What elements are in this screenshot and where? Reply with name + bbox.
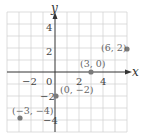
point-marker (88, 69, 93, 74)
point-6-2: (6, 2) (101, 42, 130, 53)
point-label: (6, 2) (101, 42, 127, 53)
point-label: (−3, −4) (12, 105, 53, 116)
x-axis-label: x (132, 65, 139, 79)
y-tick-2: 2 (46, 46, 52, 57)
point-marker (17, 115, 22, 120)
point-label: (3, 0) (80, 58, 106, 69)
x-axis-arrow-icon (125, 70, 132, 75)
y-tick-neg4: −4 (43, 115, 58, 126)
point-marker (53, 93, 58, 98)
y-axis-label: y (50, 1, 58, 15)
y-tick-neg2: −2 (40, 91, 55, 102)
coordinate-plane: x y −2 0 2 4 4 2 −2 −4 (6, 2) (3, 0) (0,… (0, 0, 148, 134)
x-tick-neg2: −2 (22, 76, 37, 87)
y-tick-4: 4 (46, 22, 52, 33)
point-0-neg2: (0, −2) (53, 84, 93, 99)
point-label: (0, −2) (60, 84, 94, 95)
x-tick-4: 4 (100, 76, 106, 87)
x-tick-0: 0 (46, 76, 52, 87)
